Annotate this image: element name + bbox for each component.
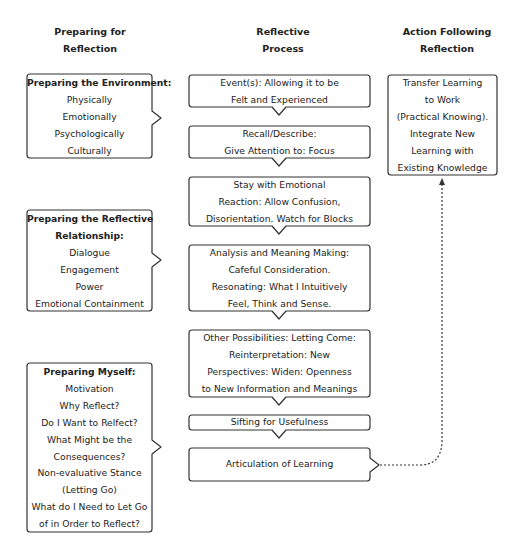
box-line: Sifting for Usefulness	[189, 414, 370, 431]
articulation-box: Articulation of Learning	[189, 456, 370, 473]
box-line: Learning with	[388, 143, 497, 160]
box-line: Other Possibilities: Letting Come:	[189, 330, 370, 347]
box-line: Give Attention to: Focus	[189, 143, 370, 160]
box-item: What do I Need to Let Go	[27, 499, 152, 516]
box-item: Power	[27, 279, 152, 296]
box-line: Integrate New	[388, 126, 497, 143]
box-item: Emotionally	[27, 109, 152, 126]
header-line: Preparing for	[30, 23, 150, 40]
box-line: Disorientation. Watch for Blocks	[189, 211, 370, 228]
box-item: Engagement	[27, 262, 152, 279]
box-line: Perspectives: Widen: Openness	[189, 364, 370, 381]
header-line: Reflection	[30, 40, 150, 57]
box-title: Preparing Myself:	[27, 364, 152, 381]
box-line: (Practical Knowing).	[388, 109, 497, 126]
box-item: Psychologically	[27, 126, 152, 143]
box-item: (Letting Go)	[27, 482, 152, 499]
box-line: Cafeful Consideration.	[189, 262, 370, 279]
header-line: Reflection	[387, 40, 507, 57]
box-line: Analysis and Meaning Making:	[189, 245, 370, 262]
analysis-meaning-box: Analysis and Meaning Making: Cafeful Con…	[189, 245, 370, 313]
box-line: to Work	[388, 92, 497, 109]
header-line: Action Following	[387, 23, 507, 40]
box-item: Why Reflect?	[27, 398, 152, 415]
box-title: Relationship:	[27, 228, 152, 245]
arrowhead-up-icon	[439, 178, 445, 185]
dotted-connector-line	[380, 185, 442, 465]
box-line: Existing Knowledge	[388, 160, 497, 177]
box-item: Motivation	[27, 381, 152, 398]
box-line: Stay with Emotional	[189, 177, 370, 194]
box-line: Recall/Describe:	[189, 126, 370, 143]
box-line: Feel, Think and Sense.	[189, 296, 370, 313]
box-item: Do I Want to Relfect?	[27, 415, 152, 432]
box-title: Preparing the Reflective	[27, 211, 152, 228]
emotional-reaction-box: Stay with Emotional Reaction: Allow Conf…	[189, 177, 370, 228]
box-line: Resonating: What I Intuitively	[189, 279, 370, 296]
box-line: to New Information and Meanings	[189, 381, 370, 398]
box-item: Emotional Containment	[27, 296, 152, 313]
box-line: Event(s): Allowing it to be	[189, 75, 370, 92]
box-item: What Might be the	[27, 432, 152, 449]
box-item: Physically	[27, 92, 152, 109]
event-box: Event(s): Allowing it to be Felt and Exp…	[189, 75, 370, 109]
box-line: Articulation of Learning	[189, 456, 370, 473]
preparing-environment-box: Preparing the Environment: Physically Em…	[27, 75, 152, 160]
preparing-relationship-box: Preparing the Reflective Relationship: D…	[27, 211, 152, 312]
box-item: Non-evaluative Stance	[27, 465, 152, 482]
recall-describe-box: Recall/Describe: Give Attention to: Focu…	[189, 126, 370, 160]
transfer-learning-box: Transfer Learning to Work (Practical Kno…	[388, 75, 497, 176]
preparing-myself-box: Preparing Myself: Motivation Why Reflect…	[27, 364, 152, 533]
header-action-following-reflection: Action Following Reflection	[387, 23, 507, 57]
other-possibilities-box: Other Possibilities: Letting Come: Reint…	[189, 330, 370, 398]
header-line: Process	[223, 40, 343, 57]
header-line: Reflective	[223, 23, 343, 40]
box-title: Preparing the Environment:	[27, 75, 152, 92]
box-item: Culturally	[27, 143, 152, 160]
sifting-box: Sifting for Usefulness	[189, 414, 370, 431]
box-line: Transfer Learning	[388, 75, 497, 92]
header-reflective-process: Reflective Process	[223, 23, 343, 57]
header-preparing-for-reflection: Preparing for Reflection	[30, 23, 150, 57]
box-line: Reaction: Allow Confusion,	[189, 194, 370, 211]
box-line: Reinterpretation: New	[189, 347, 370, 364]
box-item: Consequences?	[27, 449, 152, 466]
box-item: of in Order to Reflect?	[27, 516, 152, 533]
box-item: Dialogue	[27, 245, 152, 262]
box-line: Felt and Experienced	[189, 92, 370, 109]
